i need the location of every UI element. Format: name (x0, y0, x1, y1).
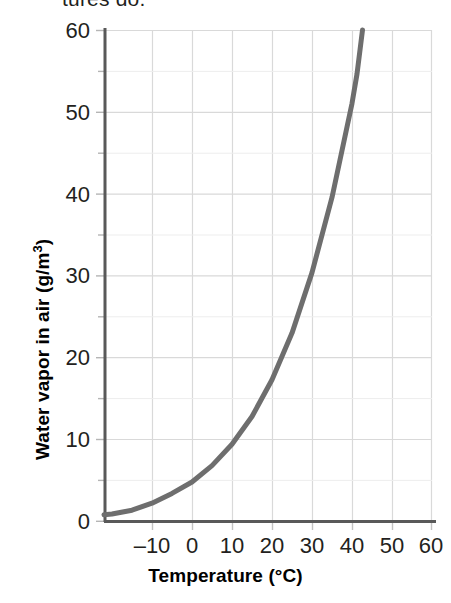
y-axis-title-superscript: 3 (30, 245, 45, 252)
chart-figure: 60 50 40 30 20 10 0 –10 0 10 20 30 40 50… (0, 0, 451, 603)
x-tick-label-60: 60 (405, 533, 451, 559)
data-series-line (104, 30, 363, 515)
y-tick-label-0: 0 (34, 509, 90, 535)
y-axis-tick-marks (96, 31, 104, 522)
x-axis-title: Temperature (°C) (0, 565, 451, 587)
y-axis-title-main: Water vapor in air (g/m (32, 253, 53, 460)
figure-page: tures do. (0, 0, 451, 603)
y-axis-title: Water vapor in air (g/m3) (30, 239, 54, 460)
y-axis-title-close: ) (32, 239, 53, 245)
y-tick-label-50: 50 (34, 100, 90, 126)
y-tick-label-60: 60 (34, 18, 90, 44)
y-tick-label-40: 40 (34, 182, 90, 208)
